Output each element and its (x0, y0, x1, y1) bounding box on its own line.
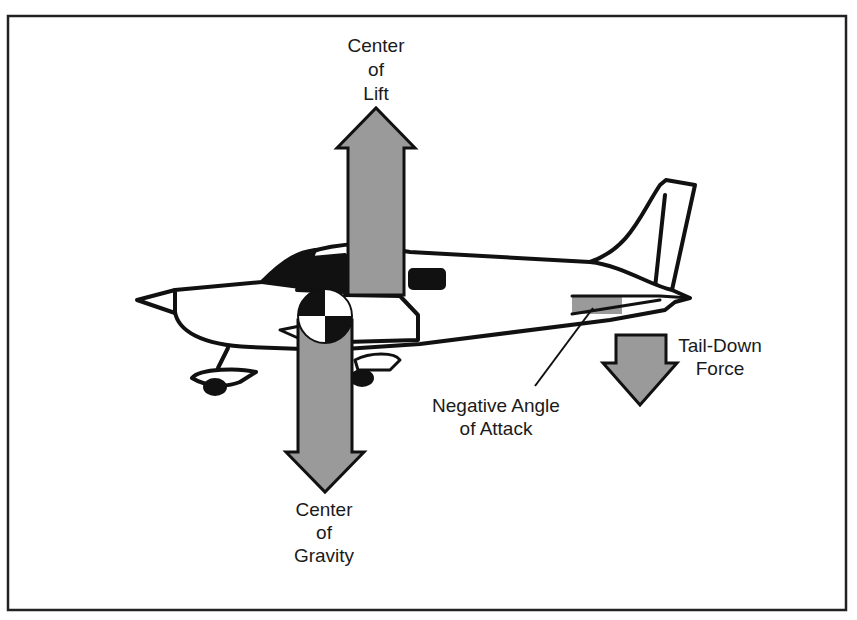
main-wheel-fairing (355, 354, 400, 370)
diagram-canvas: Center of Lift Center of Gravity Tail-Do… (0, 0, 857, 620)
svg-text:Center: Center (295, 499, 353, 520)
label-center-of-lift: Center of Lift (347, 35, 405, 104)
wing-root (345, 295, 418, 342)
svg-text:of: of (316, 522, 333, 543)
svg-text:of: of (368, 59, 385, 80)
svg-text:Lift: Lift (363, 83, 389, 104)
label-center-of-gravity: Center of Gravity (294, 499, 355, 566)
svg-text:Center: Center (347, 35, 405, 56)
svg-text:Negative Angle: Negative Angle (432, 395, 560, 416)
svg-text:Tail-Down: Tail-Down (678, 335, 761, 356)
svg-text:Force: Force (696, 358, 745, 379)
rear-window (410, 270, 444, 288)
center-of-gravity-symbol (298, 289, 352, 343)
label-negative-angle-of-attack: Negative Angle of Attack (432, 395, 560, 439)
svg-text:of Attack: of Attack (460, 418, 533, 439)
tail-down-force-arrow (603, 335, 677, 405)
lift-arrow (337, 108, 415, 295)
propeller-spinner (137, 290, 175, 313)
gravity-arrow (286, 320, 364, 492)
svg-text:Gravity: Gravity (294, 545, 355, 566)
label-tail-down-force: Tail-Down Force (678, 335, 761, 379)
